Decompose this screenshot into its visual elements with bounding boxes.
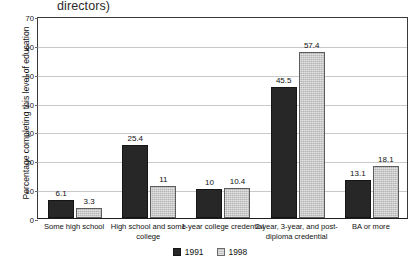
bar-value-label: 10 bbox=[205, 178, 214, 187]
legend-item-1991: 1991 bbox=[173, 247, 204, 257]
bar-group: 1010.4 bbox=[186, 18, 260, 218]
bar-value-label: 3.3 bbox=[84, 197, 95, 206]
y-axis-tick-label: 70 bbox=[26, 14, 34, 23]
bar-1998-4[interactable] bbox=[299, 52, 325, 218]
legend-label-1998: 1998 bbox=[229, 247, 248, 257]
bar-group: 25.411 bbox=[112, 18, 186, 218]
y-axis-tick-label: 20 bbox=[26, 158, 34, 167]
bar-value-label: 45.5 bbox=[276, 76, 292, 85]
y-axis-tick-label: 10 bbox=[26, 187, 34, 196]
bar-1998-1[interactable] bbox=[76, 208, 102, 218]
y-axis-tick-label: 50 bbox=[26, 71, 34, 80]
chart-title: directors) bbox=[57, 0, 110, 13]
y-axis-tick-label: 30 bbox=[26, 129, 34, 138]
bar-1998-3[interactable] bbox=[224, 188, 250, 218]
bar-groups: 6.13.325.4111010.445.557.413.118.1 bbox=[38, 18, 407, 218]
bar-value-label: 57.4 bbox=[304, 41, 320, 50]
bar-1991-3[interactable] bbox=[196, 189, 222, 218]
bar-group: 45.557.4 bbox=[261, 18, 335, 218]
legend-item-1998: 1998 bbox=[217, 247, 248, 257]
bar-group: 13.118.1 bbox=[335, 18, 409, 218]
bar-1998-2[interactable] bbox=[150, 186, 176, 218]
x-axis-category-labels: Some high schoolHigh school and some col… bbox=[37, 222, 408, 246]
bar-1991-1[interactable] bbox=[48, 200, 74, 218]
bar-value-label: 25.4 bbox=[127, 134, 143, 143]
plot-area: 010203040506070 6.13.325.4111010.445.557… bbox=[37, 17, 408, 219]
y-axis-tick-mark bbox=[35, 220, 38, 221]
y-axis-tick-label: 40 bbox=[26, 100, 34, 109]
y-axis-tick-label: 60 bbox=[26, 42, 34, 51]
legend-label-1991: 1991 bbox=[185, 247, 204, 257]
bar-value-label: 18.1 bbox=[378, 155, 394, 164]
bar-1991-5[interactable] bbox=[345, 180, 371, 218]
bar-1991-2[interactable] bbox=[122, 145, 148, 218]
bar-value-label: 11 bbox=[159, 175, 167, 184]
bar-value-label: 6.1 bbox=[56, 189, 67, 198]
x-axis-label-5: BA or more bbox=[323, 222, 419, 232]
bar-group: 6.13.3 bbox=[38, 18, 112, 218]
bar-value-label: 10.4 bbox=[230, 177, 246, 186]
bar-value-label: 13.1 bbox=[350, 169, 366, 178]
legend-swatch-icon-1991 bbox=[173, 248, 181, 256]
bar-1991-4[interactable] bbox=[271, 87, 297, 218]
bar-1998-5[interactable] bbox=[373, 166, 399, 218]
legend-swatch-icon-1998 bbox=[217, 248, 225, 256]
chart-legend: 1991 1998 bbox=[0, 247, 420, 257]
bar-chart-figure: directors) Percentage completing this le… bbox=[0, 0, 420, 262]
